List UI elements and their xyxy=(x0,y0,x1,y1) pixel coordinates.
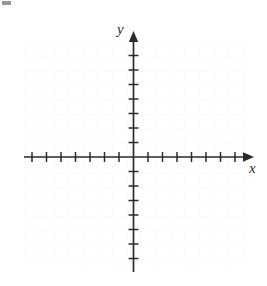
coordinate-plane-figure: y x xyxy=(0,0,267,286)
y-axis-arrowhead xyxy=(129,31,138,42)
x-axis-label: x xyxy=(249,161,256,176)
axes-layer xyxy=(0,0,267,286)
y-axis-label: y xyxy=(117,22,124,37)
